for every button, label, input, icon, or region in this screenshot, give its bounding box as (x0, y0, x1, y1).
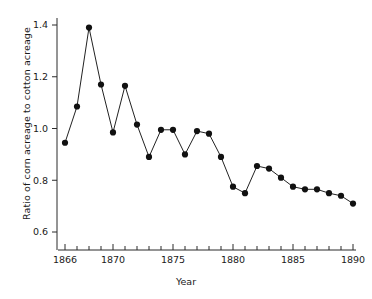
data-point (290, 184, 296, 190)
y-tick-label: 1.4 (33, 19, 48, 30)
line-chart-svg: 0.60.81.01.21.4 186618701875188018851890 (0, 0, 372, 299)
data-point (206, 131, 212, 137)
data-point (278, 175, 284, 181)
chart-figure: 0.60.81.01.21.4 186618701875188018851890… (0, 0, 372, 299)
data-point (182, 151, 188, 157)
data-point (338, 193, 344, 199)
y-axis-title: Ratio of corn acreage to cotton acreage (21, 14, 32, 234)
x-tick-label: 1875 (161, 254, 185, 265)
x-tick-label: 1890 (341, 254, 365, 265)
data-point (122, 83, 128, 89)
data-point (350, 200, 356, 206)
data-point (98, 81, 104, 87)
data-point (134, 122, 140, 128)
data-point (158, 127, 164, 133)
x-axis-title: Year (0, 276, 372, 287)
data-point (314, 186, 320, 192)
x-tick-label: 1885 (281, 254, 305, 265)
x-tick-label: 1866 (53, 254, 77, 265)
y-tick-label: 0.8 (33, 175, 48, 186)
data-point (74, 103, 80, 109)
y-tick-label: 1.2 (33, 71, 48, 82)
data-point (254, 163, 260, 169)
data-point (86, 24, 92, 30)
data-point (194, 128, 200, 134)
data-point (62, 140, 68, 146)
y-tick-label: 1.0 (33, 123, 48, 134)
x-tick-label: 1880 (221, 254, 245, 265)
data-point (242, 190, 248, 196)
data-point (146, 154, 152, 160)
data-point (302, 186, 308, 192)
data-point (110, 129, 116, 135)
x-tick-label: 1870 (101, 254, 125, 265)
data-point (218, 154, 224, 160)
data-point (326, 190, 332, 196)
data-point (170, 127, 176, 133)
data-point (266, 166, 272, 172)
y-tick-label: 0.6 (33, 226, 48, 237)
data-point (230, 184, 236, 190)
